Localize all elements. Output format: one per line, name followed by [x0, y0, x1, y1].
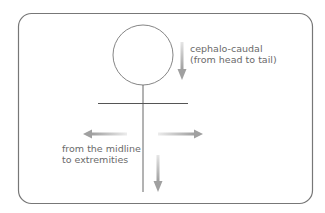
midline-label: from the midline to extremities: [62, 143, 141, 165]
development-diagram: [0, 0, 325, 213]
head-circle: [113, 25, 173, 85]
midline-label-line2: to extremities: [62, 154, 141, 165]
cephalo-caudal-label-line2: (from head to tail): [190, 54, 277, 65]
cephalo-caudal-label-line1: cephalo-caudal: [190, 43, 277, 54]
midline-label-line1: from the midline: [62, 143, 141, 154]
cephalo-caudal-label: cephalo-caudal (from head to tail): [190, 43, 277, 65]
